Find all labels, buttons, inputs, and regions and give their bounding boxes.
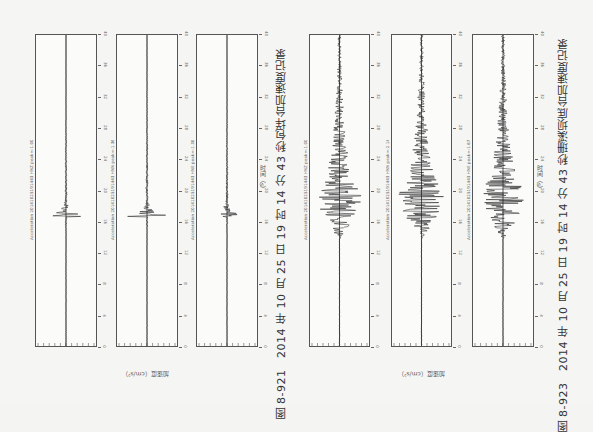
time-tick (453, 253, 456, 254)
time-tick (371, 222, 374, 223)
time-tick (535, 222, 538, 223)
time-tick (259, 65, 262, 66)
time-axis: 0481216202428323640 (179, 34, 189, 347)
time-tick (179, 159, 182, 160)
time-tick-label: 0 (457, 345, 462, 348)
time-tick-label: 28 (264, 125, 269, 130)
time-tick-label: 24 (376, 156, 381, 161)
time-tick-label: 4 (183, 314, 188, 317)
time-tick-label: 20 (376, 187, 381, 192)
time-tick (179, 284, 182, 285)
time-tick-label: 28 (103, 125, 108, 130)
time-tick-label: 4 (539, 314, 544, 317)
time-tick (259, 97, 262, 98)
waveform-trace (117, 35, 177, 346)
time-tick (453, 191, 456, 192)
time-tick-label: 8 (375, 283, 380, 286)
time-tick-label: 32 (103, 94, 108, 99)
time-tick-label: 12 (264, 250, 269, 255)
acceleration-axis-title: 加速度（cm/s²） (398, 370, 445, 379)
time-tick-label: 8 (102, 283, 107, 286)
figure-caption: 图 8-921 2014 年 10 月 25 日 19 时 14 分 43 秒包… (274, 48, 290, 419)
time-tick-label: 12 (540, 250, 545, 255)
time-tick (453, 34, 456, 35)
waveform-trace (392, 35, 451, 346)
time-tick-label: 32 (264, 94, 269, 99)
time-tick-label: 16 (103, 219, 108, 224)
time-tick (98, 284, 101, 285)
time-tick (179, 65, 182, 66)
station-label: Acceleration 20141025191443 HNE peak=-1.… (466, 140, 471, 240)
time-tick (371, 347, 374, 348)
time-tick (179, 97, 182, 98)
station-label: Acceleration 20141025191443 HNZ peak=-1.… (303, 140, 308, 240)
accelerogram-panel-1 (35, 34, 97, 347)
time-tick (259, 128, 262, 129)
time-tick-label: 8 (263, 283, 268, 286)
time-tick-label: 8 (183, 283, 188, 286)
time-tick-label: 16 (540, 219, 545, 224)
time-tick (98, 347, 101, 348)
time-tick (98, 97, 101, 98)
time-axis: 0481216202428323640 (371, 34, 381, 347)
time-tick-label: 36 (540, 62, 545, 67)
time-tick (453, 316, 456, 317)
time-tick-label: 36 (458, 62, 463, 67)
waveform-trace (473, 35, 533, 346)
accelerogram-panel-2 (391, 34, 452, 347)
time-tick (259, 316, 262, 317)
time-tick-label: 16 (264, 219, 269, 224)
station-label: Acceleration 20141025191443 HNN peak=-2.… (385, 140, 390, 240)
time-tick (453, 347, 456, 348)
time-tick-label: 20 (458, 187, 463, 192)
time-tick-label: 16 (376, 219, 381, 224)
time-tick-label: 0 (375, 345, 380, 348)
time-tick (259, 159, 262, 160)
time-tick-label: 0 (539, 345, 544, 348)
time-tick (535, 284, 538, 285)
time-tick (453, 65, 456, 66)
time-tick (179, 316, 182, 317)
time-tick-label: 24 (540, 156, 545, 161)
time-tick (98, 253, 101, 254)
time-tick (179, 191, 182, 192)
time-tick (98, 65, 101, 66)
time-tick-label: 24 (184, 156, 189, 161)
time-tick-label: 4 (457, 314, 462, 317)
time-tick (179, 222, 182, 223)
time-tick (535, 34, 538, 35)
time-tick (371, 128, 374, 129)
time-tick-label: 8 (539, 283, 544, 286)
time-axis-title: 时间（s） (535, 165, 544, 192)
time-tick-label: 40 (458, 31, 463, 36)
time-tick-label: 28 (458, 125, 463, 130)
time-axis: 0481216202428323640 (453, 34, 463, 347)
time-tick-label: 0 (183, 345, 188, 348)
time-tick-label: 16 (458, 219, 463, 224)
time-tick (453, 97, 456, 98)
time-tick (259, 34, 262, 35)
time-tick-label: 24 (264, 156, 269, 161)
time-tick (98, 222, 101, 223)
time-tick (179, 347, 182, 348)
time-tick-label: 32 (458, 94, 463, 99)
time-tick-label: 40 (540, 31, 545, 36)
time-tick-label: 32 (184, 94, 189, 99)
time-tick-label: 28 (184, 125, 189, 130)
time-tick (371, 159, 374, 160)
time-tick (535, 159, 538, 160)
time-tick (98, 128, 101, 129)
accelerogram-panel-2 (116, 34, 178, 347)
time-tick-label: 12 (376, 250, 381, 255)
time-tick (535, 253, 538, 254)
time-tick (179, 253, 182, 254)
time-tick (179, 34, 182, 35)
time-tick (98, 34, 101, 35)
time-tick (179, 128, 182, 129)
time-tick-label: 40 (264, 31, 269, 36)
accelerogram-panel-1 (309, 34, 370, 347)
time-tick-label: 12 (458, 250, 463, 255)
time-tick-label: 36 (103, 62, 108, 67)
time-tick-label: 40 (103, 31, 108, 36)
